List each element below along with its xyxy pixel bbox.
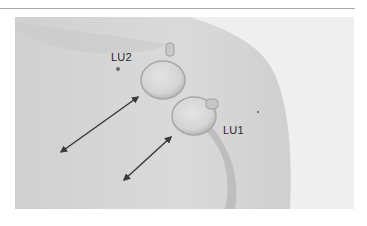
- lu2-label: LU2: [111, 51, 132, 63]
- lu2-point-marker: [116, 67, 120, 71]
- cupping-photo: [15, 17, 354, 209]
- lu1-label: LU1: [223, 124, 244, 136]
- top-divider-rule: [0, 8, 355, 9]
